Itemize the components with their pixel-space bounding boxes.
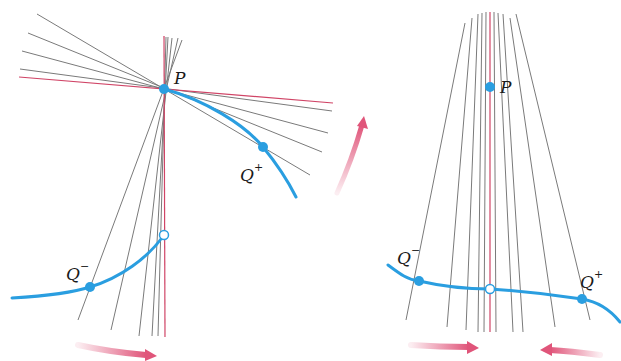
- right-bottom-left-arrow-icon: [411, 341, 479, 354]
- left-point-Q-minus: [85, 282, 95, 292]
- right-open-circle: [486, 285, 495, 294]
- right-point-Q-plus: [577, 294, 587, 304]
- right-label-Q-minus: Q: [397, 248, 411, 268]
- left-label-Q-minus-sup: −: [80, 260, 89, 273]
- right-label-P: P: [499, 77, 512, 97]
- right-label-Q-minus-sup: −: [411, 244, 420, 257]
- left-curved-up-arrow-icon: [337, 116, 368, 193]
- left-point-P: [159, 84, 169, 94]
- right-label-Q-plus-sup: +: [594, 268, 603, 281]
- right-label-Q-plus: Q: [580, 272, 594, 292]
- left-point-Q-plus: [258, 142, 268, 152]
- right-point-Q-minus: [414, 276, 424, 286]
- left-label-Q-minus: Q: [66, 264, 80, 284]
- left-bottom-arrow-icon: [78, 345, 157, 361]
- left-curve-right-branch: [164, 89, 296, 197]
- secant-tangent-diagram: P Q + Q −: [0, 0, 621, 361]
- left-open-circle: [160, 231, 169, 240]
- right-bottom-right-arrow-icon: [540, 343, 600, 356]
- right-point-P: [485, 82, 495, 92]
- left-panel: P Q + Q −: [12, 14, 368, 361]
- right-panel: P Q − Q +: [388, 12, 620, 356]
- left-label-P: P: [173, 68, 186, 88]
- left-label-Q-plus: Q: [240, 165, 254, 185]
- left-label-Q-plus-sup: +: [254, 161, 263, 174]
